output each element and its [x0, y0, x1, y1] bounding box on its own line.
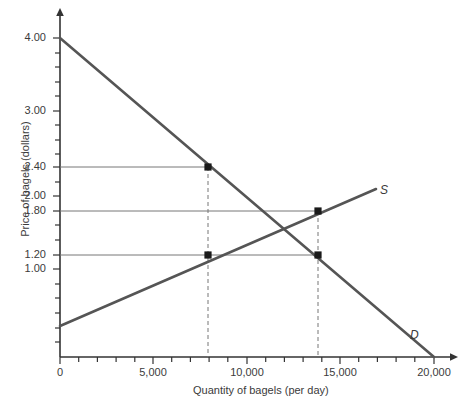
y-axis-arrow-icon — [56, 8, 64, 16]
y-axis-title-wrapper: Price of bagels (dollars) — [15, 109, 33, 249]
marker-point-8000-120 — [204, 251, 211, 258]
marker-point-14000-120 — [314, 251, 321, 258]
x-axis-title: Quantity of bagels (per day) — [193, 384, 329, 396]
x-tick-label-10000: 10,000 — [214, 366, 280, 378]
supply-curve-label: S — [380, 183, 388, 197]
x-axis-arrow-icon — [450, 353, 458, 361]
marker-point-14000-180 — [314, 207, 321, 214]
demand-curve — [60, 38, 434, 357]
x-tick-label-5000: 5,000 — [123, 366, 183, 378]
x-tick-label-15000: 15,000 — [307, 366, 373, 378]
reference-lines-dashed-group — [208, 167, 318, 357]
supply-demand-chart: 4.00 3.00 2.40 2.00 1.80 1.20 1.00 0 5,0… — [0, 0, 469, 405]
x-tick-label-20000: 20,000 — [401, 366, 467, 378]
y-ticks-group — [53, 38, 60, 342]
chart-canvas — [0, 0, 469, 405]
demand-curve-label: D — [410, 328, 419, 342]
marker-point-8000-240 — [204, 163, 211, 170]
y-tick-label-120: 1.20 — [0, 248, 46, 260]
y-axis-title: Price of bagels (dollars) — [19, 121, 31, 237]
y-tick-label-400: 4.00 — [0, 31, 46, 43]
reference-lines-group — [60, 167, 318, 255]
x-ticks-group — [60, 357, 434, 364]
y-tick-label-100: 1.00 — [0, 262, 46, 274]
supply-curve — [60, 189, 376, 326]
curves-group — [60, 38, 434, 357]
axes-group — [56, 8, 458, 361]
x-tick-label-0: 0 — [50, 366, 70, 378]
